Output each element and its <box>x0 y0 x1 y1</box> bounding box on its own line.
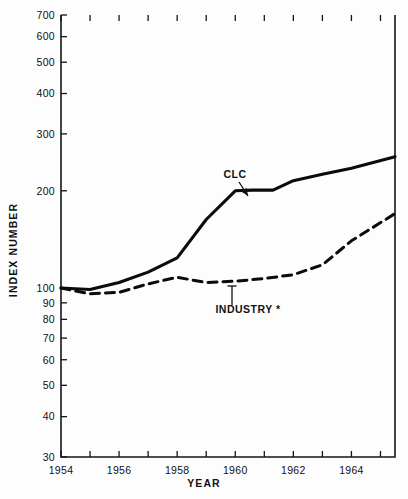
chart-page: 70060050040030020010090807060504030 1954… <box>0 0 408 499</box>
plot-frame <box>61 15 395 457</box>
y-tick-label: 100 <box>37 282 55 294</box>
y-tick-label: 500 <box>37 56 55 68</box>
y-tick-label: 80 <box>43 313 55 325</box>
y-tick-label: 600 <box>37 30 55 42</box>
y-tick-label: 60 <box>43 354 55 366</box>
y-tick-label: 400 <box>37 87 55 99</box>
x-tick-label: 1958 <box>165 464 190 476</box>
line-chart: 70060050040030020010090807060504030 1954… <box>0 0 408 499</box>
x-tick-label: 1960 <box>223 464 248 476</box>
series-line-industry <box>61 214 395 294</box>
y-tick-label: 50 <box>43 379 55 391</box>
x-tick-label: 1956 <box>107 464 132 476</box>
y-axis-ticks: 70060050040030020010090807060504030 <box>37 9 67 463</box>
y-tick-label: 30 <box>43 451 55 463</box>
y-tick-label: 200 <box>37 185 55 197</box>
x-tick-label: 1954 <box>49 464 74 476</box>
annotation-label: CLC <box>223 168 246 180</box>
y-tick-label: 700 <box>37 9 55 21</box>
x-axis-title: YEAR <box>187 477 221 489</box>
x-tick-label: 1964 <box>339 464 364 476</box>
y-tick-label: 90 <box>43 297 55 309</box>
y-axis-title: INDEX NUMBER <box>7 203 19 297</box>
axis-frame-path <box>61 15 395 457</box>
x-tick-label: 1962 <box>281 464 306 476</box>
y-tick-label: 70 <box>43 332 55 344</box>
annotation-label: INDUSTRY * <box>215 303 281 315</box>
y-tick-label: 40 <box>43 410 55 422</box>
x-axis-ticks: 195419561958196019621964 <box>49 15 381 476</box>
y-tick-label: 300 <box>37 128 55 140</box>
